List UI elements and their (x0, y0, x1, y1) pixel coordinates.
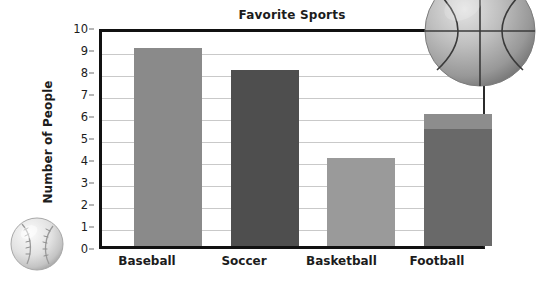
y-axis-tick-labels: 012345678910 (60, 29, 94, 249)
y-tick-mark (89, 161, 94, 162)
y-tick-mark (89, 183, 94, 184)
y-tick-label: 0 (81, 242, 88, 256)
x-label-baseball: Baseball (113, 254, 181, 268)
y-tick-mark (89, 73, 94, 74)
y-axis-title: Number of People (41, 57, 55, 227)
y-tick-label: 10 (73, 22, 88, 36)
y-tick-label: 5 (81, 132, 88, 146)
bar-football (424, 114, 492, 246)
y-tick-mark (89, 139, 94, 140)
bar-basketball (327, 158, 395, 246)
basketball-icon (421, 0, 539, 90)
football-bar-light-cap (424, 114, 492, 129)
y-tick-label: 8 (81, 66, 88, 80)
y-tick-mark (89, 227, 94, 228)
baseball-icon (9, 216, 65, 272)
y-tick-mark (89, 205, 94, 206)
y-tick-label: 7 (81, 88, 88, 102)
y-tick-mark (89, 95, 94, 96)
y-tick-label: 9 (81, 44, 88, 58)
x-label-football: Football (403, 254, 471, 268)
x-axis-category-labels: BaseballSoccerBasketballFootball (99, 254, 485, 278)
x-label-basketball: Basketball (306, 254, 374, 268)
y-tick-mark (89, 29, 94, 30)
x-label-soccer: Soccer (210, 254, 278, 268)
y-tick-mark (89, 249, 94, 250)
y-tick-label: 6 (81, 110, 88, 124)
favorite-sports-bar-chart: Favorite Sports Number of People 0123456… (0, 0, 540, 288)
y-tick-label: 3 (81, 176, 88, 190)
y-tick-mark (89, 117, 94, 118)
y-tick-label: 4 (81, 154, 88, 168)
y-tick-mark (89, 51, 94, 52)
bar-baseball (134, 48, 202, 246)
y-tick-label: 1 (81, 220, 88, 234)
y-tick-label: 2 (81, 198, 88, 212)
bar-soccer (231, 70, 299, 246)
